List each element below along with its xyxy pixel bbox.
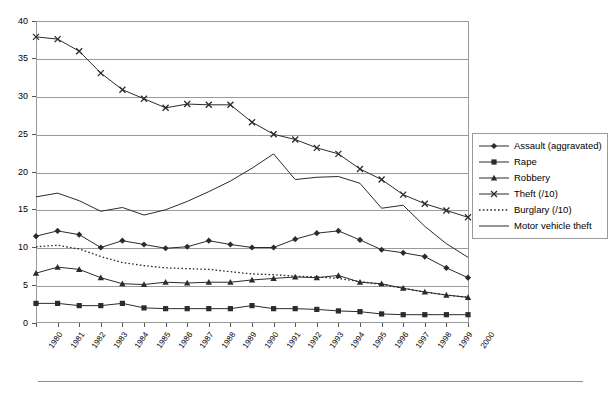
x-axis-tick (317, 323, 318, 327)
data-point-diamond (249, 244, 255, 250)
data-point-diamond (314, 230, 320, 236)
data-point-cross (292, 137, 298, 143)
data-point-square (314, 307, 319, 312)
x-axis-tick (360, 323, 361, 327)
data-point-square (228, 306, 233, 311)
x-axis-tick-label: 1983 (112, 331, 129, 350)
data-point-cross (141, 96, 147, 102)
y-axis-tick-label: 15 (0, 205, 28, 214)
y-axis-tick (32, 209, 36, 210)
chart-legend: Assault (aggravated)RapeRobberyTheft (/1… (472, 133, 608, 239)
x-axis-tick (274, 323, 275, 327)
data-point-diamond (141, 241, 147, 247)
data-point-cross (465, 214, 471, 220)
data-point-diamond (271, 244, 277, 250)
data-point-diamond (292, 236, 298, 242)
x-axis-tick-label: 1980 (48, 331, 65, 350)
y-axis-tick-label: 0 (0, 319, 28, 328)
data-point-square (401, 312, 406, 317)
legend-item: Burglary (/10) (477, 202, 602, 218)
x-axis-tick-label: 1997 (415, 331, 432, 350)
data-point-diamond (335, 228, 341, 234)
data-point-square (465, 312, 470, 317)
data-point-square (444, 312, 449, 317)
y-axis-tick-label: 40 (0, 17, 28, 26)
y-axis-tick-label: 5 (0, 281, 28, 290)
data-point-diamond (422, 253, 428, 259)
y-axis-tick (32, 247, 36, 248)
data-point-triangle (335, 272, 341, 278)
data-point-square (206, 306, 211, 311)
data-point-cross (335, 151, 341, 157)
data-point-square (185, 306, 190, 311)
x-axis-tick (403, 323, 404, 327)
x-axis-tick-label: 1986 (177, 331, 194, 350)
data-point-square (77, 303, 82, 308)
y-axis-tick (32, 58, 36, 59)
legend-swatch-icon (477, 139, 511, 153)
legend-swatch-icon (477, 219, 511, 233)
data-point-diamond (206, 238, 212, 244)
x-axis-tick (79, 323, 80, 327)
data-point-cross (119, 87, 125, 93)
legend-item: Robbery (477, 170, 602, 186)
data-point-cross (422, 201, 428, 207)
data-point-diamond (76, 232, 82, 238)
data-point-diamond (491, 143, 497, 149)
x-axis-tick (58, 323, 59, 327)
data-point-diamond (55, 228, 61, 234)
x-axis-tick-label: 1988 (220, 331, 237, 350)
x-axis-tick-label: 1989 (242, 331, 259, 350)
data-point-diamond (400, 250, 406, 256)
data-point-cross (400, 192, 406, 198)
x-axis-tick-label: 1994 (350, 331, 367, 350)
data-point-diamond (379, 247, 385, 253)
series-layer (36, 21, 469, 323)
x-axis-tick-label: 1991 (285, 331, 302, 350)
data-point-diamond (98, 244, 104, 250)
data-point-square (379, 311, 384, 316)
y-axis-tick-label: 35 (0, 54, 28, 63)
data-point-square (163, 306, 168, 311)
x-axis-tick (187, 323, 188, 327)
x-axis-tick-label: 1992 (307, 331, 324, 350)
data-point-cross (76, 48, 82, 54)
x-axis-tick (230, 323, 231, 327)
y-axis-tick (32, 96, 36, 97)
data-point-cross (357, 166, 363, 172)
legend-item: Assault (aggravated) (477, 138, 602, 154)
y-axis-tick-label: 10 (0, 243, 28, 252)
y-axis-tick-label: 25 (0, 130, 28, 139)
x-axis-tick (166, 323, 167, 327)
x-axis-tick-label: 1985 (156, 331, 173, 350)
x-axis-tick (144, 323, 145, 327)
y-axis-tick-label: 20 (0, 168, 28, 177)
data-point-cross (249, 119, 255, 125)
legend-item-label: Rape (511, 157, 537, 167)
legend-item-label: Assault (aggravated) (511, 141, 602, 151)
data-point-diamond (119, 238, 125, 244)
bottom-divider (38, 381, 583, 382)
x-axis-tick (252, 323, 253, 327)
data-point-square (33, 301, 38, 306)
x-axis-tick (338, 323, 339, 327)
x-axis-tick-label: 1998 (436, 331, 453, 350)
legend-item-label: Motor vehicle theft (511, 221, 592, 231)
data-point-triangle (98, 275, 104, 281)
data-point-square (293, 306, 298, 311)
y-axis-tick (32, 21, 36, 22)
y-axis-tick (32, 134, 36, 135)
legend-swatch-icon (477, 155, 511, 169)
x-axis-tick-label: 1999 (458, 331, 475, 350)
data-point-cross (98, 70, 104, 76)
legend-swatch-icon (477, 203, 511, 217)
x-axis-tick-label: 1984 (134, 331, 151, 350)
x-axis-tick (209, 323, 210, 327)
x-axis-tick (101, 323, 102, 327)
data-point-cross (443, 208, 449, 214)
legend-swatch-icon (477, 171, 511, 185)
data-point-square (55, 301, 60, 306)
x-axis-tick-label: 1995 (372, 331, 389, 350)
